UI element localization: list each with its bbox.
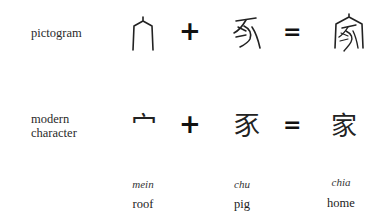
romanization-roof: mein <box>113 178 173 190</box>
meaning-roof: roof <box>113 197 173 212</box>
modern-row-label-line2: character <box>31 126 77 140</box>
pictogram-row-label: pictogram <box>31 26 82 40</box>
pig-pictogram-icon <box>232 15 266 51</box>
pig-character: 豕 <box>234 112 260 140</box>
romanization-home: chia <box>311 176 371 188</box>
equals-operator: = <box>283 21 301 43</box>
roof-pictogram-icon <box>130 15 156 51</box>
romanization-pig: chu <box>212 178 272 190</box>
meaning-home: home <box>311 196 371 211</box>
modern-row-label-line1: modern <box>31 112 69 126</box>
plus-operator: + <box>179 18 201 44</box>
equals-operator-2: = <box>283 114 301 136</box>
home-character: 家 <box>331 112 357 140</box>
plus-operator-2: + <box>179 111 201 137</box>
roof-character: 宀 <box>131 112 157 140</box>
meaning-pig: pig <box>212 197 272 212</box>
home-pictogram-icon <box>332 12 366 54</box>
